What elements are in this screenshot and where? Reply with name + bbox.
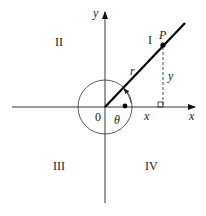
- quadrant-iii-label: III: [53, 159, 65, 173]
- theta-label: θ: [114, 113, 120, 127]
- origin-label: 0: [95, 110, 101, 124]
- polar-coordinates-diagram: y x 0 I II III IV P r y x θ: [0, 0, 206, 216]
- quadrant-ii-label: II: [55, 35, 63, 49]
- point-p: [160, 42, 165, 47]
- quadrant-i-label: I: [148, 33, 152, 47]
- right-angle-marker: [158, 102, 163, 107]
- y-axis-label: y: [92, 6, 99, 20]
- quadrant-iv-label: IV: [145, 159, 158, 173]
- x-axis-label: x: [188, 109, 195, 123]
- x-segment-label: x: [143, 109, 150, 123]
- y-segment-label: y: [167, 69, 174, 83]
- point-p-label: P: [158, 28, 167, 42]
- radius-label: r: [130, 64, 135, 78]
- angle-start-dot: [123, 104, 128, 109]
- radius-ray: [105, 23, 185, 107]
